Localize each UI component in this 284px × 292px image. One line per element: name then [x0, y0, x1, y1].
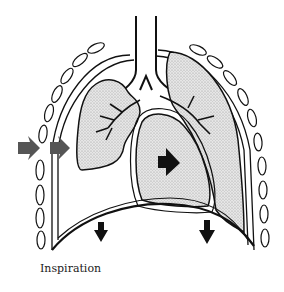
figure-caption: Inspiration [40, 262, 101, 275]
diaphragm-left-arrow [94, 222, 108, 242]
diaphragm-right-arrow [199, 220, 215, 244]
chest-wall-outer-arrow [18, 136, 40, 160]
inspiration-diagram [0, 0, 284, 292]
